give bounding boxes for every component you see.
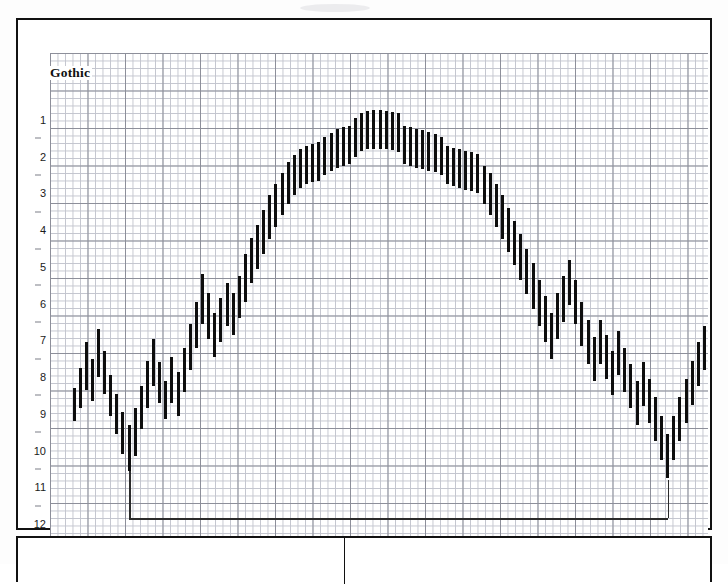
range-bar <box>348 126 351 165</box>
y-minor-tick <box>35 138 41 139</box>
paper-smudge <box>300 4 370 12</box>
range-bar <box>525 249 528 295</box>
range-bar <box>342 127 345 166</box>
y-minor-tick <box>35 211 41 212</box>
y-minor-tick <box>35 432 41 433</box>
range-bar <box>605 335 608 379</box>
range-bar <box>660 416 663 460</box>
range-bar <box>232 293 235 335</box>
range-bar <box>654 397 657 441</box>
y-minor-tick <box>35 285 41 286</box>
range-bar <box>678 397 681 441</box>
range-bar <box>305 146 308 185</box>
range-bar <box>85 342 88 390</box>
range-bar <box>121 412 124 454</box>
range-bar <box>532 263 535 309</box>
bottom-panel-divider <box>344 538 345 584</box>
y-tick-label-5: 5 <box>40 261 46 272</box>
y-tick-label-12: 12 <box>34 519 46 530</box>
range-bar <box>421 130 424 169</box>
bottom-panel-left-cell <box>26 544 336 578</box>
range-bar <box>550 313 553 359</box>
range-bar <box>360 113 363 152</box>
baseline-bracket <box>129 518 668 520</box>
range-bar <box>250 238 253 284</box>
range-bar <box>238 276 241 318</box>
range-bar <box>513 221 516 265</box>
range-bar <box>115 394 118 434</box>
range-bar <box>287 162 290 204</box>
range-bar <box>519 234 522 280</box>
range-bar <box>483 166 486 205</box>
y-tick-label-4: 4 <box>40 225 46 236</box>
range-bar <box>336 129 339 168</box>
bottom-panel-right-cell <box>352 544 702 578</box>
bracket-riser-right <box>668 480 670 519</box>
y-tick-label-6: 6 <box>40 298 46 309</box>
y-tick-label-1: 1 <box>40 115 46 126</box>
range-bar <box>544 296 547 342</box>
range-bar <box>611 351 614 395</box>
range-bar <box>103 351 106 393</box>
range-bar <box>587 320 590 364</box>
y-tick-label-7: 7 <box>40 335 46 346</box>
range-bar <box>470 152 473 191</box>
range-bar <box>440 137 443 176</box>
bracket-riser-left <box>129 471 131 519</box>
range-bar <box>97 329 100 377</box>
range-bar <box>642 362 645 406</box>
range-bar <box>281 173 284 215</box>
range-bar <box>617 331 620 375</box>
y-minor-tick <box>35 358 41 359</box>
y-tick-label-10: 10 <box>34 445 46 456</box>
range-bar <box>330 133 333 172</box>
range-bar <box>507 208 510 252</box>
range-bar <box>372 110 375 149</box>
range-bar <box>580 302 583 346</box>
range-bar <box>109 375 112 415</box>
range-bar <box>201 274 204 324</box>
y-minor-tick <box>35 248 41 249</box>
range-bar <box>672 416 675 460</box>
range-bar <box>158 362 161 402</box>
range-bar <box>636 381 639 425</box>
range-bar <box>293 155 296 195</box>
range-bar <box>623 348 626 392</box>
range-bar <box>427 132 430 171</box>
range-bar <box>538 280 541 326</box>
range-bar <box>323 137 326 176</box>
range-bar <box>568 260 571 306</box>
range-bar <box>262 210 265 254</box>
range-bar <box>691 361 694 405</box>
y-tick-label-9: 9 <box>40 408 46 419</box>
y-tick-label-11: 11 <box>35 482 46 493</box>
plot-area[interactable] <box>50 53 708 538</box>
range-bar <box>415 129 418 168</box>
bottom-panel <box>16 536 712 582</box>
range-bar <box>562 276 565 322</box>
range-bar <box>354 118 357 157</box>
range-bar <box>464 151 467 190</box>
range-bar <box>311 144 314 183</box>
range-bar <box>697 342 700 386</box>
range-bar <box>501 195 504 239</box>
range-bar <box>170 357 173 403</box>
range-bar <box>274 184 277 226</box>
range-bar <box>593 337 596 381</box>
range-bar <box>703 326 706 370</box>
range-bar <box>152 339 155 387</box>
range-bar <box>452 148 455 187</box>
range-bar <box>299 149 302 188</box>
range-bar <box>379 110 382 149</box>
range-bar <box>91 359 94 401</box>
range-bar <box>366 111 369 150</box>
range-bar <box>397 113 400 151</box>
range-bar <box>213 313 216 357</box>
range-bar <box>79 368 82 408</box>
range-bar <box>128 425 131 471</box>
y-tick-label-2: 2 <box>40 151 46 162</box>
range-bar <box>648 379 651 423</box>
range-bar <box>268 195 271 239</box>
chart-title: Gothic <box>48 66 92 80</box>
range-bar <box>556 293 559 339</box>
